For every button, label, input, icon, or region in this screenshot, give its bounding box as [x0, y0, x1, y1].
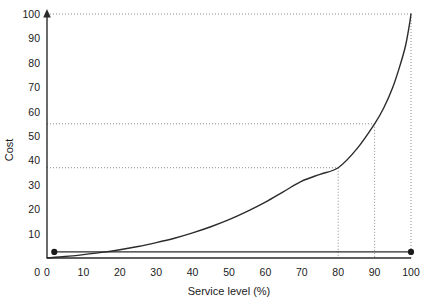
cost-curve-path-main	[47, 14, 411, 258]
cost-service-level-chart: 100 90 80 70 60 50 40 30 20 10 0 0 10 20…	[0, 0, 425, 305]
x-tick-labels-group: 0 10 20 30 40 50 60 70 80 90 100	[44, 266, 420, 278]
y-tick-label-90: 90	[28, 32, 40, 44]
y-tick-label-100: 100	[22, 8, 40, 20]
chart-figure: 100 90 80 70 60 50 40 30 20 10 0 0 10 20…	[0, 0, 425, 305]
y-tick-label-30: 30	[28, 179, 40, 191]
x-tick-label-80: 80	[332, 266, 344, 278]
x-tick-label-70: 70	[296, 266, 308, 278]
x-tick-label-30: 30	[150, 266, 162, 278]
y-axis-title: Cost	[3, 139, 15, 162]
origin-marker	[51, 249, 57, 255]
right-baseline-marker	[408, 249, 414, 255]
x-tick-label-90: 90	[369, 266, 381, 278]
y-tick-label-0: 0	[34, 266, 40, 278]
y-tick-labels-group: 100 90 80 70 60 50 40 30 20 10 0	[22, 8, 40, 278]
y-tick-label-60: 60	[28, 106, 40, 118]
reference-lines-group	[47, 14, 411, 258]
x-tick-label-40: 40	[187, 266, 199, 278]
y-tick-label-70: 70	[28, 81, 40, 93]
y-tick-label-20: 20	[28, 203, 40, 215]
curve-group	[47, 14, 411, 258]
y-tick-label-40: 40	[28, 154, 40, 166]
y-tick-label-10: 10	[28, 228, 40, 240]
x-tick-label-60: 60	[260, 266, 272, 278]
x-tick-label-50: 50	[223, 266, 235, 278]
x-axis-title: Service level (%)	[188, 285, 271, 297]
x-tick-label-20: 20	[114, 266, 126, 278]
y-axis-arrow-icon	[43, 9, 51, 18]
y-tick-label-80: 80	[28, 57, 40, 69]
y-tick-label-50: 50	[28, 130, 40, 142]
x-tick-label-0: 0	[44, 266, 50, 278]
x-tick-label-100: 100	[402, 266, 420, 278]
x-tick-label-10: 10	[78, 266, 90, 278]
